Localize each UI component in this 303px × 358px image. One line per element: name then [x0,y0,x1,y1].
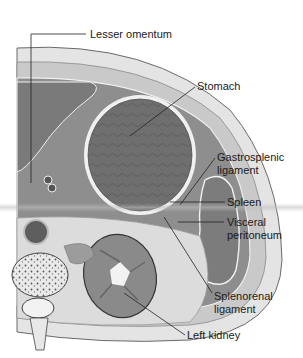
label-splenorenal-ligament: Splenorenal ligament [214,290,273,316]
vertebral-body [12,253,68,297]
spinal-canal [22,298,54,318]
label-visceral-peritoneum: Visceral peritoneum [227,216,282,242]
label-spleen: Spleen [227,196,261,209]
spinous-process [30,318,48,350]
label-stomach: Stomach [197,80,240,93]
label-left-kidney: Left kidney [187,329,240,342]
label-lesser-omentum: Lesser omentum [90,28,172,41]
label-gastrosplenic-ligament: Gastrosplenic ligament [217,151,284,177]
aorta [24,220,48,244]
